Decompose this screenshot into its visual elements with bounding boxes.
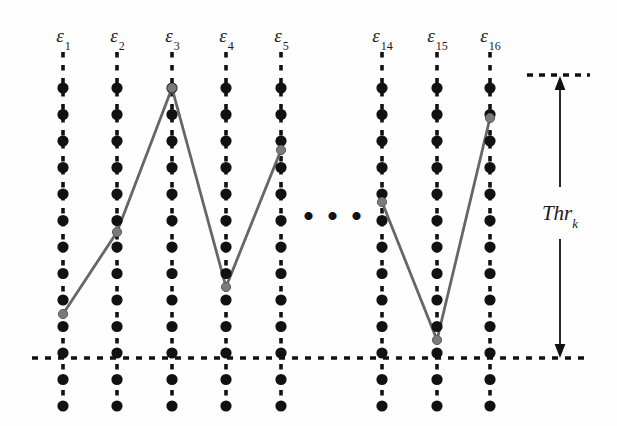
column-label-eps2: ε2: [110, 26, 124, 49]
threshold-arrow-up-head: [555, 76, 566, 90]
candidate-dot: [484, 400, 495, 411]
polyline-vertex: [221, 282, 230, 291]
candidate-dot: [166, 215, 177, 226]
candidate-dot: [431, 374, 442, 385]
candidate-dot: [275, 347, 286, 358]
candidate-dot: [166, 347, 177, 358]
candidate-dot: [376, 82, 387, 93]
candidate-dot: [431, 82, 442, 93]
candidate-dot: [57, 400, 68, 411]
candidate-dot: [376, 374, 387, 385]
ellipsis-gap-indicator: • • •: [303, 201, 365, 231]
candidate-dot: [484, 135, 495, 146]
candidate-dot: [275, 321, 286, 332]
column-label-eps16: ε16: [480, 26, 500, 49]
column-label-symbol: ε: [274, 25, 282, 46]
signal-polyline-segment-right: [382, 118, 490, 340]
candidate-dot: [166, 162, 177, 173]
candidate-dot: [431, 162, 442, 173]
polyline-vertex: [377, 197, 386, 206]
candidate-dot: [484, 215, 495, 226]
candidate-dot: [275, 241, 286, 252]
candidate-dot: [220, 294, 231, 305]
candidate-dot: [275, 374, 286, 385]
column-label-symbol: ε: [56, 25, 64, 46]
column-label-eps5: ε5: [274, 26, 288, 49]
candidate-dot: [166, 400, 177, 411]
candidate-dots: [57, 82, 495, 411]
column-label-eps4: ε4: [219, 26, 233, 49]
candidate-dot: [376, 294, 387, 305]
candidate-dot: [376, 241, 387, 252]
candidate-dot: [484, 294, 495, 305]
candidate-dot: [376, 347, 387, 358]
threshold-label-subscript: k: [572, 216, 578, 231]
candidate-dot: [220, 347, 231, 358]
candidate-dot: [220, 135, 231, 146]
candidate-dot: [220, 188, 231, 199]
candidate-dot: [484, 241, 495, 252]
candidate-dot: [57, 215, 68, 226]
column-label-subscript: 5: [283, 39, 289, 53]
threshold-label: Thrk: [542, 203, 578, 227]
candidate-dot: [376, 268, 387, 279]
candidate-dot: [431, 321, 442, 332]
candidate-dot: [111, 162, 122, 173]
candidate-dot: [376, 135, 387, 146]
candidate-dot: [220, 215, 231, 226]
candidate-dot: [57, 374, 68, 385]
candidate-dot: [484, 347, 495, 358]
candidate-dot: [57, 321, 68, 332]
column-label-symbol: ε: [480, 25, 488, 46]
candidate-dot: [376, 321, 387, 332]
candidate-dot: [111, 82, 122, 93]
candidate-dot: [166, 109, 177, 120]
polyline-vertex: [276, 145, 285, 154]
candidate-dot: [166, 135, 177, 146]
candidate-dot: [57, 82, 68, 93]
polyline-vertex: [112, 227, 121, 236]
column-label-eps3: ε3: [165, 26, 179, 49]
candidate-dot: [220, 241, 231, 252]
candidate-dot: [111, 241, 122, 252]
candidate-dot: [220, 268, 231, 279]
column-label-subscript: 4: [228, 39, 234, 53]
candidate-dot: [166, 188, 177, 199]
candidate-dot: [57, 294, 68, 305]
candidate-dot: [220, 374, 231, 385]
column-label-subscript: 14: [381, 39, 393, 53]
column-label-subscript: 15: [436, 39, 448, 53]
column-label-symbol: ε: [165, 25, 173, 46]
candidate-dot: [275, 109, 286, 120]
column-label-subscript: 1: [65, 39, 71, 53]
candidate-dot: [275, 82, 286, 93]
candidate-dot: [111, 135, 122, 146]
candidate-dot: [57, 135, 68, 146]
candidate-dot: [111, 400, 122, 411]
candidate-dot: [166, 268, 177, 279]
candidate-dot: [275, 400, 286, 411]
candidate-dot: [220, 109, 231, 120]
candidate-dot: [275, 162, 286, 173]
candidate-dot: [275, 188, 286, 199]
column-label-symbol: ε: [372, 25, 380, 46]
candidate-dot: [431, 268, 442, 279]
candidate-dot: [431, 241, 442, 252]
candidate-dot: [484, 162, 495, 173]
candidate-dot: [111, 321, 122, 332]
candidate-dot: [275, 268, 286, 279]
candidate-dot: [431, 188, 442, 199]
candidate-dot: [484, 374, 495, 385]
candidate-dot: [431, 215, 442, 226]
threshold-arrow-down-head: [555, 344, 566, 358]
candidate-dot: [57, 162, 68, 173]
candidate-dot: [111, 268, 122, 279]
threshold-label-main: Thr: [542, 201, 572, 225]
candidate-dot: [111, 215, 122, 226]
candidate-dot: [57, 268, 68, 279]
candidate-dot: [111, 188, 122, 199]
candidate-dot: [431, 294, 442, 305]
column-label-subscript: 16: [489, 39, 501, 53]
polyline-vertex: [485, 113, 494, 122]
column-label-eps15: ε15: [427, 26, 447, 49]
